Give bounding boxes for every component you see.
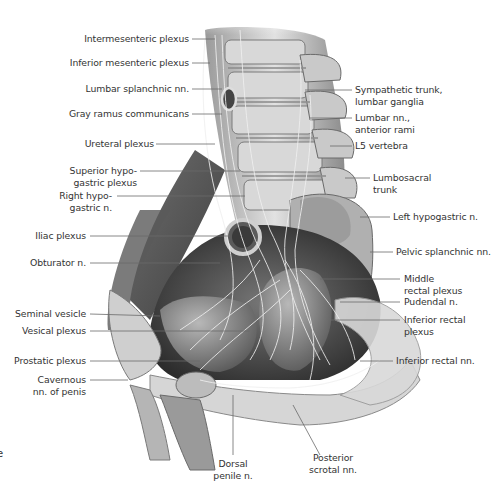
label-seminal-vesicle: Seminal vesicle [15, 308, 86, 320]
label-vesical-plexus: Vesical plexus [22, 325, 86, 337]
label-intermesenteric-plexus: Intermesenteric plexus [84, 33, 189, 45]
label-lumbar-nn-anterior-rami: Lumbar nn., anterior rami [355, 112, 415, 136]
label-pudendal-n: Pudendal n. [404, 296, 458, 308]
cropped-glyph: e [0, 448, 3, 459]
anatomy-figure: e Intermesenteric plexus Inferior mesent… [0, 0, 497, 494]
label-iliac-plexus: Iliac plexus [35, 230, 86, 242]
label-ureteral-plexus: Ureteral plexus [85, 138, 154, 150]
label-posterior-scrotal-nn: Posterior scrotal nn. [300, 452, 366, 476]
label-lumbosacral-trunk: Lumbosacral trunk [373, 172, 431, 196]
label-lumbar-splanchnic-nn: Lumbar splanchnic nn. [86, 83, 189, 95]
label-cavernous-nn-of-penis: Cavernous nn. of penis [33, 374, 86, 398]
label-dorsal-penile-n: Dorsal penile n. [205, 458, 261, 482]
label-sympathetic-trunk-lumbar-ganglia: Sympathetic trunk, lumbar ganglia [355, 84, 442, 108]
label-l5-vertebra: L5 vertebra [355, 140, 408, 152]
label-prostatic-plexus: Prostatic plexus [14, 355, 86, 367]
label-pelvic-splanchnic-nn: Pelvic splanchnic nn. [396, 246, 491, 258]
label-middle-rectal-plexus: Middle rectal plexus [404, 273, 462, 297]
label-gray-ramus-communicans: Gray ramus communicans [69, 108, 189, 120]
label-inferior-rectal-plexus: Inferior rectal plexus [404, 314, 465, 338]
label-right-hypogastric-n: Right hypo- gastric n. [59, 190, 112, 214]
label-inferior-rectal-nn: Inferior rectal nn. [396, 355, 475, 367]
prostate [176, 372, 216, 398]
label-superior-hypogastric-plexus: Superior hypo- gastric plexus [70, 165, 137, 189]
label-inferior-mesenteric-plexus: Inferior mesenteric plexus [70, 57, 189, 69]
label-left-hypogastric-n: Left hypogastric n. [393, 211, 478, 223]
label-obturator-n: Obturator n. [30, 257, 86, 269]
